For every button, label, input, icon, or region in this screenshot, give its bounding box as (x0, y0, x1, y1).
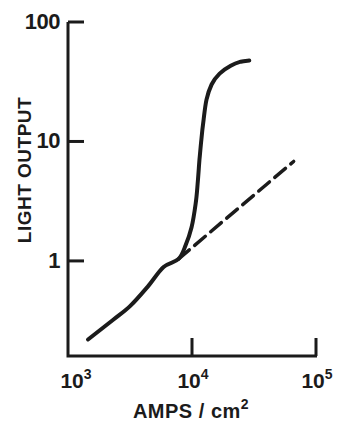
y-axis-title: LIGHT OUTPUT (14, 97, 36, 243)
x-axis-title: AMPS / cm2 (133, 397, 249, 423)
y-tick-label-10: 10 (6, 128, 60, 154)
log-log-chart-figure: LIGHT OUTPUT 100 10 1 103 104 105 AMPS /… (0, 0, 347, 437)
x-tick-1e4-exponent: 4 (201, 366, 209, 382)
y-tick-label-1: 1 (6, 248, 60, 274)
x-tick-1e3-exponent: 3 (84, 366, 92, 382)
y-tick-label-100: 100 (6, 9, 60, 35)
x-tick-label-1e4: 104 (163, 362, 223, 394)
x-tick-1e5-exponent: 5 (325, 366, 333, 382)
x-axis-title-base: AMPS / cm (133, 400, 241, 422)
x-tick-label-1e5: 105 (287, 362, 347, 394)
x-tick-1e3-base: 10 (60, 369, 83, 392)
x-tick-1e4-base: 10 (177, 369, 200, 392)
series-light-output-measured-curve (88, 61, 249, 340)
x-tick-1e5-base: 10 (301, 369, 324, 392)
x-tick-label-1e3: 103 (46, 362, 106, 394)
x-axis-title-superscript: 2 (241, 396, 249, 412)
axes-frame (68, 22, 317, 356)
